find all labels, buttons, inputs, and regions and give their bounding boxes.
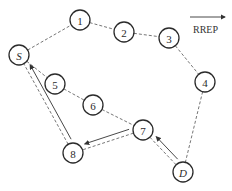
node-label: 5 xyxy=(52,79,58,91)
node-D: D xyxy=(173,162,193,182)
link-4-D xyxy=(183,82,205,172)
node-label: 6 xyxy=(90,100,96,112)
node-3: 3 xyxy=(159,28,179,48)
link-7-8 xyxy=(73,130,143,153)
link-8-S xyxy=(19,55,73,153)
legend: RREP xyxy=(190,17,225,35)
nodes: S12345678D xyxy=(9,10,215,182)
node-label: 2 xyxy=(121,27,127,39)
node-label: S xyxy=(16,50,22,62)
legend-label: RREP xyxy=(193,24,218,35)
node-6: 6 xyxy=(83,95,103,115)
node-4: 4 xyxy=(195,72,215,92)
node-label: D xyxy=(178,167,187,179)
network-diagram: S12345678D RREP xyxy=(0,0,232,191)
node-2: 2 xyxy=(114,22,134,42)
node-S: S xyxy=(9,45,29,65)
node-label: 7 xyxy=(140,125,146,137)
node-label: 8 xyxy=(70,148,76,160)
node-8: 8 xyxy=(63,143,83,163)
node-5: 5 xyxy=(45,74,65,94)
node-label: 4 xyxy=(202,77,208,89)
node-label: 3 xyxy=(166,33,172,45)
node-7: 7 xyxy=(133,120,153,140)
node-1: 1 xyxy=(70,10,90,30)
node-label: 1 xyxy=(77,15,83,27)
